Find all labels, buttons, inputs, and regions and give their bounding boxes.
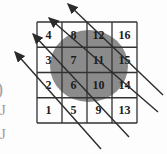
cell-1: 1 [46,103,52,117]
cell-9: 9 [96,103,102,117]
cell-13: 13 [119,103,131,117]
cell-16: 16 [119,28,131,42]
cell-7: 7 [71,53,77,67]
grid-diagram-canvas: 4 8 12 16 3 7 11 15 2 6 10 14 1 5 9 13 [0,0,167,154]
cell-3: 3 [46,53,52,67]
cell-10: 10 [93,78,105,92]
matrix-diagonal-traversal-diagram: ) J J 4 8 12 16 3 7 11 15 2 6 10 14 [0,0,167,154]
cell-4: 4 [46,28,52,42]
